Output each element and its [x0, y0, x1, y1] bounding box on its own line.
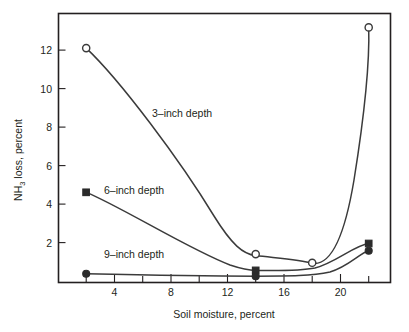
y-tick-label-10: 10	[40, 83, 52, 95]
datapoint-9inch-x23	[365, 247, 372, 254]
datapoint-3inch-x23	[365, 24, 372, 31]
datapoint-6inch-x23	[365, 240, 372, 247]
x-tick-label-20: 20	[335, 286, 347, 298]
datapoint-3inch-x2	[83, 45, 90, 52]
datapoint-9inch-x2	[83, 270, 90, 277]
x-axis-title: Soil moisture, percent	[173, 308, 275, 320]
x-tick-label-4: 4	[112, 286, 118, 298]
series-label-3-inch-depth: 3–inch depth	[152, 107, 212, 119]
ammonia-loss-line-chart: 12 10 8 6 4 2 4 8 12 16 20	[0, 0, 409, 332]
y-tick-label-8: 8	[46, 121, 52, 133]
y-tick-label-2: 2	[46, 237, 52, 249]
x-tick-label-12: 12	[222, 286, 234, 298]
datapoint-9inch-x15	[252, 273, 259, 280]
y-tick-label-12: 12	[40, 44, 52, 56]
y-axis-title-post: loss, percent	[12, 119, 24, 182]
datapoint-3inch-x15	[252, 251, 259, 258]
y-tick-label-4: 4	[46, 198, 52, 210]
series-label-9-inch-depth: 9–inch depth	[104, 248, 164, 260]
series-label-6-inch-depth: 6–inch depth	[104, 184, 164, 196]
chart-container: 12 10 8 6 4 2 4 8 12 16 20	[0, 0, 409, 332]
datapoint-6inch-x2	[83, 189, 90, 196]
datapoint-3inch-x18	[309, 259, 316, 266]
y-axis-title-pre: NH	[12, 186, 24, 201]
y-tick-label-6: 6	[46, 160, 52, 172]
x-tick-label-16: 16	[278, 286, 290, 298]
x-tick-label-8: 8	[168, 286, 174, 298]
